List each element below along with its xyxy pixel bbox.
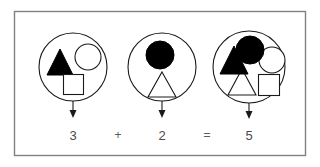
set-group-a [39, 33, 107, 101]
shape-circle-black-b1 [146, 41, 174, 69]
count-label-a: 3 [69, 128, 76, 143]
operator-plus: + [114, 128, 121, 142]
set-group-sum [213, 31, 285, 103]
shape-square-white-a3 [64, 75, 84, 95]
diagram-canvas: 3 + 2 = 5 [0, 0, 320, 167]
set-group-b [128, 33, 196, 101]
shape-square-white-s5 [259, 75, 280, 96]
count-label-b: 2 [158, 128, 165, 143]
set-addition-figure: 3 + 2 = 5 [0, 0, 320, 167]
shape-circle-white-a2 [75, 44, 101, 70]
operator-equals: = [203, 128, 210, 142]
count-label-sum: 5 [245, 128, 252, 143]
shape-circle-black-s2 [236, 36, 264, 64]
